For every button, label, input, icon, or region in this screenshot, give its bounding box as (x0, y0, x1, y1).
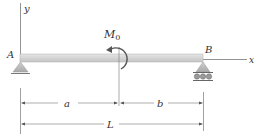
dimension-l: L (21, 119, 203, 130)
support-label-a: A (6, 49, 14, 60)
dimension-a-label: a (64, 98, 70, 109)
dimension-l-label: L (106, 119, 114, 130)
roller-icon (200, 74, 205, 79)
pin-support (11, 62, 30, 74)
beam-diagram: y x A B M0 a (0, 0, 260, 139)
dimension-a: a (21, 98, 118, 109)
y-axis: y (21, 3, 31, 55)
y-axis-label: y (23, 3, 30, 14)
x-axis-label: x (249, 55, 254, 65)
support-label-b: B (204, 44, 212, 55)
moment-label: M0 (103, 28, 120, 42)
dimension-b-label: b (157, 98, 163, 109)
roller-support (193, 62, 213, 81)
beam (20, 54, 203, 62)
dimension-b: b (120, 98, 203, 109)
roller-icon (206, 74, 211, 79)
x-axis: x (203, 55, 254, 65)
roller-icon (194, 74, 199, 79)
